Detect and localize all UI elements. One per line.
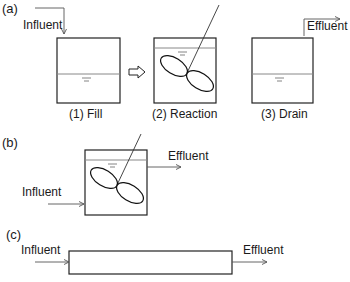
influent-label-a: Influent [23,18,63,32]
tank-reaction [154,5,219,103]
plug-flow-reactor [69,251,232,274]
tank-fill [57,38,120,103]
panel-b: (b) Influent Effluent [2,134,209,215]
step-drain-label: (3) Drain [261,107,308,121]
water-surface-icon [82,78,91,81]
tank-continuous [85,134,147,215]
panel-c: (c) Influent Effluent [6,227,284,274]
tank-drain [252,38,313,103]
water-surface-icon [178,52,187,55]
step-fill-label: (1) Fill [69,107,102,121]
water-surface-icon [108,164,117,167]
panel-b-label: (b) [2,135,18,150]
step-reaction-label: (2) Reaction [152,107,217,121]
panel-c-label: (c) [6,227,21,242]
effluent-label-b: Effluent [168,149,209,163]
mixer-icon [157,5,219,96]
influent-label-b: Influent [22,185,62,199]
mixer-icon [87,134,147,208]
influent-label-c: Influent [21,243,61,257]
reactor-diagram: (a) Influent (1) Fill [0,0,350,282]
effluent-label-a: Effluent [307,19,348,33]
next-step-arrow-icon [129,66,145,78]
panel-a-label: (a) [2,1,18,16]
water-surface-icon [275,78,284,81]
effluent-label-c: Effluent [243,243,284,257]
panel-a: (a) Influent (1) Fill [2,1,348,121]
